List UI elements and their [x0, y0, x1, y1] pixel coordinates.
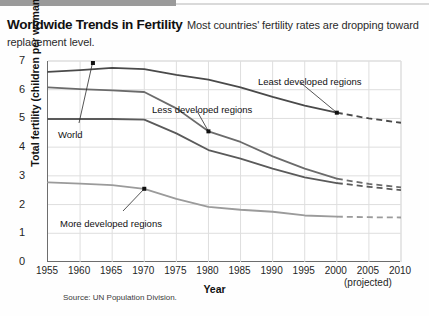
y-tick-label: 4 — [3, 140, 25, 152]
y-tick-label: 2 — [3, 198, 25, 210]
y-tick-label: 7 — [3, 54, 25, 66]
series-line-2 — [48, 119, 337, 183]
figure-container: Worldwide Trends in Fertility Most count… — [0, 0, 429, 316]
series-label-1: Less developed regions — [152, 104, 252, 115]
y-tick-label: 6 — [3, 83, 25, 95]
series-line-dashed-3 — [337, 217, 401, 218]
source-note: Source: UN Population Division. — [63, 293, 177, 302]
series-line-3 — [48, 182, 337, 216]
series-label-2: World — [58, 129, 83, 140]
y-tick-label: 3 — [3, 169, 25, 181]
y-tick-label: 1 — [3, 226, 25, 238]
series-label-3: More developed regions — [60, 218, 162, 229]
header-band — [0, 0, 176, 6]
plot-area — [47, 61, 400, 262]
chart-svg — [48, 61, 401, 262]
y-tick-label: 0 — [3, 255, 25, 267]
caption: Worldwide Trends in Fertility Most count… — [7, 16, 423, 50]
series-label-0: Least developed regions — [258, 76, 362, 87]
y-axis-label: Total fertility (children per woman) — [29, 0, 41, 186]
header-hairline — [176, 3, 429, 5]
y-tick-label: 5 — [3, 111, 25, 123]
x-tick-label: 2010 — [378, 265, 422, 276]
series-line-1 — [48, 87, 337, 178]
